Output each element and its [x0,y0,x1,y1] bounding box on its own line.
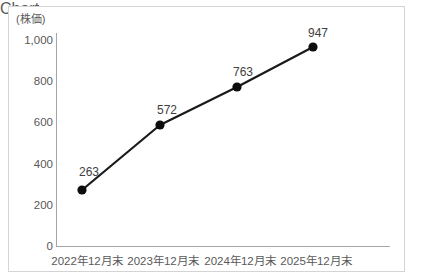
data-point-marker [308,42,317,51]
x-tick-2022: 2022年12月末 [51,252,122,268]
data-label-763: 763 [233,65,253,79]
data-point-marker [155,120,164,129]
data-label-572: 572 [157,103,177,117]
series-plot [0,0,421,275]
data-label-947: 947 [308,26,328,40]
data-point-marker [77,185,86,194]
x-tick-2024: 2024年12月末 [204,252,275,268]
stock-price-line-chart: (株価) 1,000 800 600 400 200 0 263 572 763… [0,0,421,275]
data-label-263: 263 [79,165,99,179]
series-line [82,47,313,190]
x-tick-2025: 2025年12月末 [280,252,351,268]
data-point-marker [232,82,241,91]
x-tick-2023: 2023年12月末 [127,252,198,268]
